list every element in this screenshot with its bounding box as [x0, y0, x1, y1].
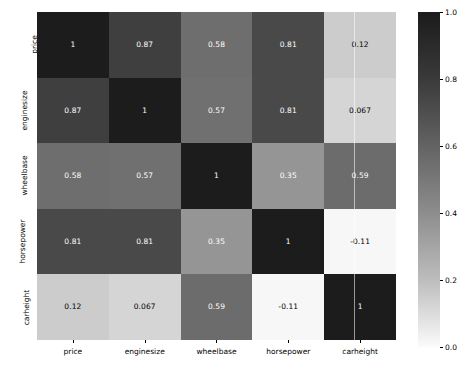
heatmap-cell: 0.81 — [37, 209, 109, 275]
heatmap-cell: 0.59 — [181, 274, 253, 340]
y-axis-tick-label: enginesize — [20, 90, 29, 130]
heatmap-cell-value: 0.59 — [352, 172, 369, 180]
heatmap-cell-value: 0.58 — [64, 172, 81, 180]
heatmap-grid: 10.870.580.810.120.8710.570.810.0670.580… — [37, 12, 396, 340]
heatmap-cell-value: 0.35 — [208, 238, 225, 246]
heatmap-cell-value: 0.58 — [208, 41, 225, 49]
colorbar-gradient — [418, 12, 440, 347]
colorbar: 1.00.80.60.40.20.0 — [418, 12, 440, 347]
x-axis-tick-mark — [288, 340, 289, 343]
heatmap-cell-value: 0.81 — [280, 41, 297, 49]
x-axis-tick-mark — [145, 340, 146, 343]
heatmap-cell: 0.57 — [181, 78, 253, 144]
heatmap-cell: 1 — [37, 12, 109, 78]
heatmap-cell: 0.35 — [181, 209, 253, 275]
heatmap-cell: 1 — [252, 209, 324, 275]
heatmap-cell: 0.87 — [109, 12, 181, 78]
heatmap-cell-value: 1 — [70, 41, 75, 49]
heatmap-cell: 0.81 — [252, 78, 324, 144]
colorbar-tick-label: 0.4 — [445, 209, 457, 218]
x-axis-tick: price — [37, 340, 109, 366]
x-axis-tick-label: horsepower — [266, 347, 310, 356]
heatmap-cell-value: 0.81 — [280, 107, 297, 115]
colorbar-tick-mark — [440, 12, 443, 13]
heatmap-cell-value: 1 — [286, 238, 291, 246]
y-axis-tick-label: horsepower — [18, 220, 27, 264]
heatmap-cell-value: 0.59 — [208, 303, 225, 311]
heatmap-cell: 0.81 — [252, 12, 324, 78]
x-axis-tick-label: wheelbase — [196, 347, 236, 356]
heatmap-cell-value: 0.87 — [136, 41, 153, 49]
colorbar-tick-label: 0.0 — [445, 343, 457, 352]
heatmap-cell-value: -0.11 — [350, 238, 370, 246]
heatmap-cell: 0.87 — [37, 78, 109, 144]
x-axis-tick: horsepower — [252, 340, 324, 366]
heatmap-cell-value: 1 — [142, 107, 147, 115]
heatmap-cell: 0.12 — [324, 12, 396, 78]
heatmap-cell-value: 0.81 — [136, 238, 153, 246]
heatmap-cell-value: 0.12 — [64, 303, 81, 311]
x-axis-tick-mark — [216, 340, 217, 343]
heatmap-cell: 0.59 — [324, 143, 396, 209]
colorbar-tick-label: 0.8 — [445, 75, 457, 84]
heatmap-cell: 0.57 — [109, 143, 181, 209]
correlation-heatmap-figure: priceenginesizewheelbasehorsepowercarhei… — [0, 0, 464, 367]
heatmap-cell: 1 — [324, 274, 396, 340]
colorbar-tick-mark — [440, 280, 443, 281]
heatmap-cell-value: 0.12 — [352, 41, 369, 49]
heatmap-cell: 0.81 — [109, 209, 181, 275]
heatmap-cell-value: 0.35 — [280, 172, 297, 180]
heatmap-cell: 0.067 — [109, 274, 181, 340]
heatmap-cell: 0.58 — [37, 143, 109, 209]
heatmap-cell: 0.58 — [181, 12, 253, 78]
x-axis: priceenginesizewheelbasehorsepowercarhei… — [37, 340, 396, 366]
x-axis-tick: carheight — [324, 340, 396, 366]
heatmap-cell-value: 0.81 — [64, 238, 81, 246]
x-axis-tick-label: carheight — [342, 347, 378, 356]
heatmap-cell-value: 0.87 — [64, 107, 81, 115]
heatmap-cell-value: 1 — [214, 172, 219, 180]
y-axis: priceenginesizewheelbasehorsepowercarhei… — [0, 12, 37, 340]
heatmap-cell: -0.11 — [324, 209, 396, 275]
render-seam-artifact — [354, 274, 355, 340]
colorbar-tick-mark — [440, 79, 443, 80]
heatmap-cell: 0.35 — [252, 143, 324, 209]
heatmap-cell: 1 — [181, 143, 253, 209]
x-axis-tick: wheelbase — [181, 340, 253, 366]
x-axis-tick-mark — [360, 340, 361, 343]
heatmap-cell-value: 0.57 — [208, 107, 225, 115]
x-axis-tick: enginesize — [109, 340, 181, 366]
colorbar-tick-label: 0.6 — [445, 142, 457, 151]
colorbar-tick-label: 1.0 — [445, 8, 457, 17]
y-axis-tick-label: carheight — [22, 289, 31, 325]
colorbar-tick-mark — [440, 213, 443, 214]
colorbar-tick-label: 0.2 — [445, 276, 457, 285]
heatmap-cell-value: 1 — [358, 303, 363, 311]
heatmap-cell: 0.067 — [324, 78, 396, 144]
heatmap-cell: -0.11 — [252, 274, 324, 340]
heatmap-cell: 0.12 — [37, 274, 109, 340]
heatmap-cell-value: -0.11 — [278, 303, 298, 311]
colorbar-tick-mark — [440, 146, 443, 147]
heatmap-cell-value: 0.067 — [134, 303, 156, 311]
x-axis-tick-label: price — [64, 347, 83, 356]
y-axis-tick-label: wheelbase — [20, 156, 29, 196]
colorbar-tick-mark — [440, 347, 443, 348]
x-axis-tick-label: enginesize — [125, 347, 165, 356]
x-axis-tick-mark — [73, 340, 74, 343]
heatmap-cell-value: 0.067 — [349, 107, 371, 115]
heatmap-cell-value: 0.57 — [136, 172, 153, 180]
heatmap-cell: 1 — [109, 78, 181, 144]
